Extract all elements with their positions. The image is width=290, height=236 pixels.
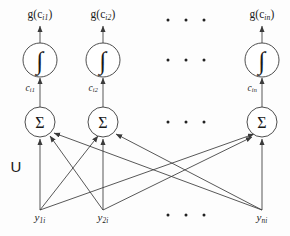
- ellipsis-dot: [203, 19, 206, 22]
- summation-glyph: Σ: [257, 114, 266, 131]
- ellipsis-dot: [203, 59, 206, 62]
- output-label-n-close: ): [271, 8, 275, 20]
- output-label-1-close: ): [49, 8, 53, 20]
- activation-node-1: ∫: [23, 43, 57, 77]
- input-label-1: y1i: [35, 212, 46, 225]
- summation-node-group: Σ Σ Σ: [25, 107, 277, 137]
- ellipsis-dot: [185, 59, 188, 62]
- edge-input-2-to-sum-n: [103, 137, 252, 210]
- ellipsis-dot: [167, 214, 170, 217]
- summation-node-n: Σ: [247, 107, 277, 137]
- edge-input-2-to-sum-1: [50, 136, 103, 210]
- neural-network-diagram: ∫ ∫ ∫ Σ Σ Σ: [0, 0, 290, 236]
- ellipsis-dot: [203, 121, 206, 124]
- ellipsis-dot: [185, 121, 188, 124]
- input-label-n: yni: [257, 212, 268, 225]
- ellipsis-dot: [203, 214, 206, 217]
- activation-glyph: ∫: [35, 47, 45, 76]
- weight-label-n-sub: in: [252, 86, 257, 93]
- weight-label-1-sub: i1: [30, 86, 35, 93]
- activation-node-n: ∫: [245, 43, 279, 77]
- input-label-1-sub: 1i: [39, 217, 45, 225]
- summation-glyph: Σ: [35, 114, 44, 131]
- ellipsis-dot: [167, 59, 170, 62]
- ellipsis-summation-row: [167, 121, 206, 124]
- edge-input-n-to-sum-1: [54, 133, 262, 210]
- activation-glyph: ∫: [257, 47, 267, 76]
- output-label-n: g(cin): [250, 9, 275, 21]
- edge-input-1-to-sum-n: [40, 134, 254, 210]
- output-label-2-close: ): [112, 8, 116, 20]
- summation-node-1: Σ: [25, 107, 55, 137]
- output-label-1: g(ci1): [28, 9, 53, 21]
- activation-glyph: ∫: [98, 47, 108, 76]
- ellipsis-activation-row: [167, 59, 206, 62]
- edge-input-n-to-sum-2: [116, 134, 262, 210]
- input-label-2: y2i: [98, 212, 109, 225]
- output-label-2-base: g(c: [91, 8, 106, 20]
- weight-label-2-sub: i2: [93, 86, 98, 93]
- weight-label-2: ci2: [89, 84, 99, 94]
- output-label-n-base: g(c: [250, 8, 265, 20]
- input-label-2-sub: 2i: [102, 217, 108, 225]
- output-label-1-base: g(c: [28, 8, 43, 20]
- weight-label-1: ci1: [26, 84, 36, 94]
- weight-label-n: cin: [248, 84, 258, 94]
- ellipsis-dot: [185, 214, 188, 217]
- output-label-2: g(ci2): [91, 9, 116, 21]
- diagram-wires: ∫ ∫ ∫ Σ Σ Σ: [0, 0, 290, 236]
- ellipsis-output-row: [167, 19, 206, 22]
- ellipsis-input-row: [167, 214, 206, 217]
- summation-node-2: Σ: [88, 107, 118, 137]
- ellipsis-dot: [185, 19, 188, 22]
- activation-node-2: ∫: [86, 43, 120, 77]
- input-label-n-sub: ni: [261, 217, 267, 225]
- weight-matrix-label: U: [11, 159, 22, 174]
- ellipsis-dot: [167, 19, 170, 22]
- ellipsis-dot: [167, 121, 170, 124]
- summation-glyph: Σ: [98, 114, 107, 131]
- activation-node-group: ∫ ∫ ∫: [23, 43, 279, 77]
- edge-input-1-to-sum-2: [40, 136, 98, 210]
